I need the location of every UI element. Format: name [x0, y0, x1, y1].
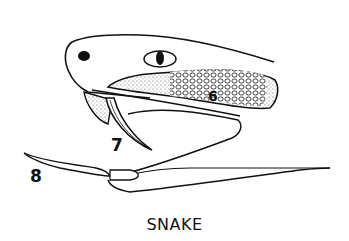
venom-gland — [170, 69, 267, 106]
fang-sheath — [84, 92, 112, 124]
label-8: 8 — [30, 168, 42, 185]
body-outline — [108, 168, 330, 192]
tongue-base — [110, 170, 138, 180]
snake-head-illustration — [0, 0, 349, 241]
label-7: 7 — [111, 137, 123, 154]
eye-pupil — [156, 51, 164, 65]
nostril-icon — [78, 51, 90, 61]
snake-diagram: 6 7 8 SNAKE — [0, 0, 349, 241]
label-6: 6 — [208, 89, 218, 103]
caption: SNAKE — [0, 217, 349, 233]
